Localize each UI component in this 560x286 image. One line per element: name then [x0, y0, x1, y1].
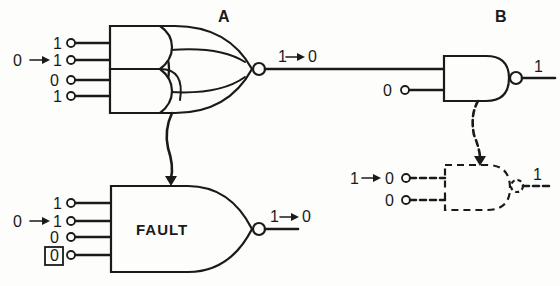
gate-b-output-value: 1 [534, 58, 543, 75]
fault-gate-input-wires [75, 203, 111, 255]
gate-a-input-2-previous-value: 0 [13, 52, 22, 69]
fault-input-2-previous-value: 0 [13, 213, 22, 230]
gate-a-output-to: 0 [308, 48, 317, 65]
gate-a-input-value-4: 1 [53, 88, 62, 105]
fault-input-pin-4 [67, 251, 75, 259]
fault-input-value-3: 0 [50, 229, 59, 246]
transition-arrow-icon [286, 53, 305, 61]
gate-a-input-wires [75, 43, 110, 96]
gate-b-inversion-bubble [510, 72, 522, 84]
fault-input-value-1: 1 [53, 195, 62, 212]
transition-arrow-icon [30, 56, 50, 64]
gate-b-label: B [495, 8, 507, 25]
fault-input-pin-3 [67, 233, 75, 241]
transition-arrow-icon [30, 217, 50, 225]
equivalent-b-nand-body [445, 165, 510, 210]
fault-input-value-4: 0 [50, 247, 59, 264]
fault-output-from: 1 [270, 208, 279, 225]
gate-a-label: A [218, 8, 230, 25]
gate-b-nand-body [444, 56, 509, 101]
gate-a-input-pin-1 [67, 39, 75, 47]
gate-b: B 0 1 [383, 8, 555, 101]
transition-arrow-icon [280, 213, 299, 221]
transition-arrow-icon [362, 174, 381, 182]
equivalent-gate-b: 0 0 1 1 [350, 165, 552, 210]
gate-a-input-pin-2 [67, 56, 75, 64]
gate-a-input-value-1: 1 [53, 35, 62, 52]
fault-input-pin-2 [67, 217, 75, 225]
gate-a-input-pin-4 [67, 92, 75, 100]
equivalent-b-input-value-1: 0 [385, 170, 394, 187]
fault-gate-inversion-bubble [253, 223, 265, 235]
fault-equivalence-arrow [165, 113, 177, 186]
equivalent-b-input-value-2: 0 [385, 192, 394, 209]
gate-a-and-upper [110, 26, 172, 69]
gate-a-input-pin-3 [67, 76, 75, 84]
equivalent-b-inversion-bubble [511, 180, 523, 192]
gate-a-inversion-bubble [253, 63, 265, 75]
gate-b-input-pin-2 [401, 86, 409, 94]
gate-a-input-value-3: 0 [50, 72, 59, 89]
fault-input-pin-1 [67, 199, 75, 207]
fault-gate-label: FAULT [136, 221, 188, 238]
equivalent-b-input-1-previous-value: 1 [350, 170, 359, 187]
gate-a-and-lower [110, 69, 172, 113]
logic-fault-diagram: A 1 1 0 1 0 1 [0, 0, 560, 286]
fault-input-value-2: 1 [53, 213, 62, 230]
gate-b-input-2-value: 0 [383, 82, 392, 99]
gate-b-equivalence-arrow [473, 101, 486, 166]
fault-gate: 1 1 0 0 0 FAULT 1 0 [13, 186, 311, 272]
gate-a: A 1 1 0 1 0 1 [13, 8, 317, 113]
gate-a-input-value-2: 1 [53, 52, 62, 69]
fault-output-to: 0 [302, 208, 311, 225]
equivalent-b-output-value: 1 [533, 166, 542, 183]
